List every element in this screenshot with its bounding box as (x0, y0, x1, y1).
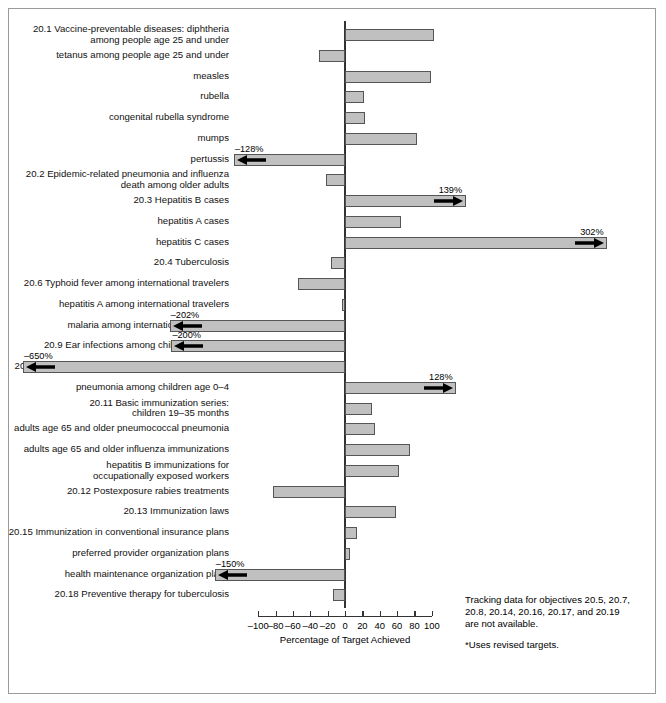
figure-notes: Tracking data for objectives 20.5, 20.7,… (465, 594, 665, 651)
x-tick (310, 611, 311, 616)
bar (345, 444, 410, 456)
bar (345, 71, 431, 83)
chart-row: hepatitis C cases302% (9, 232, 657, 254)
category-label: preferred provider organization plans (0, 548, 229, 559)
chart-row: 20.1 Vaccine-preventable diseases: dipht… (9, 24, 657, 46)
category-label: 20.13 Immunization laws (0, 506, 229, 517)
bar (345, 465, 399, 477)
x-tick (258, 611, 259, 616)
chart-row: 20.10 Pneumonia among people age 65 and … (9, 356, 657, 378)
chart-row: congenital rubella syndrome (9, 107, 657, 129)
category-label: hepatitis A among international traveler… (0, 299, 229, 310)
x-tick (328, 611, 329, 616)
chart-row: 20.3 Hepatitis B cases139% (9, 190, 657, 212)
category-label: pertussis (0, 154, 229, 165)
chart-row: mumps (9, 128, 657, 150)
bar-value-label: 139% (439, 185, 463, 195)
category-label: 20.6 Typhoid fever among international t… (0, 278, 229, 289)
category-label: hepatitis C cases (0, 237, 229, 248)
bar (345, 29, 434, 41)
chart-row: pertussis–128% (9, 149, 657, 171)
x-tick (432, 611, 433, 616)
chart-row: 20.2 Epidemic-related pneumonia and infl… (9, 169, 657, 191)
bar (23, 361, 345, 373)
bar-value-label: –128% (235, 144, 264, 154)
bar-value-label: –150% (216, 559, 245, 569)
bar (331, 257, 345, 269)
notes-line-2: 20.8, 20.14, 20.16, 20.17, and 20.19 (465, 606, 665, 618)
x-tick-label: 100 (412, 620, 452, 631)
notes-line-4: *Uses revised targets. (465, 639, 665, 651)
bar (342, 299, 345, 311)
category-label: 20.15 Immunization in conventional insur… (0, 527, 229, 538)
x-tick (345, 611, 346, 616)
chart-row: tetanus among people age 25 and under (9, 45, 657, 67)
chart-row: 20.9 Ear infections among children age 0… (9, 335, 657, 357)
bar (345, 91, 364, 103)
category-label: adults age 65 and older influenza immuni… (0, 444, 229, 455)
category-label: rubella (0, 91, 229, 102)
category-label: measles (0, 71, 229, 82)
bar (345, 548, 350, 560)
chart-row: rubella (9, 86, 657, 108)
category-label: 20.11 Basic immunization series: childre… (0, 398, 229, 420)
bar (345, 506, 396, 518)
chart-row: 20.4 Tuberculosis (9, 252, 657, 274)
bar (345, 527, 357, 539)
bar (326, 174, 345, 186)
bar (345, 133, 417, 145)
chart-row: 20.12 Postexposure rabies treatments (9, 481, 657, 503)
category-label: pneumonia among children age 0–4 (0, 382, 229, 393)
bar (345, 382, 456, 394)
bar (234, 154, 345, 166)
chart-frame: –100–80–60–40–20020406080100 20.1 Vaccin… (8, 8, 656, 694)
category-label: adults age 65 and older pneumococcal pne… (0, 423, 229, 434)
bar (273, 486, 345, 498)
bar (171, 340, 345, 352)
chart-row: pneumonia among children age 0–4128% (9, 377, 657, 399)
chart-row: adults age 65 and older pneumococcal pne… (9, 418, 657, 440)
bar (345, 112, 365, 124)
chart-plot-area: –100–80–60–40–20020406080100 20.1 Vaccin… (9, 9, 657, 695)
chart-row: preferred provider organization plans (9, 543, 657, 565)
notes-line-3: are not available. (465, 618, 665, 630)
chart-row: measles (9, 66, 657, 88)
category-label: 20.12 Postexposure rabies treatments (0, 486, 229, 497)
notes-line-1: Tracking data for objectives 20.5, 20.7, (465, 594, 665, 606)
x-axis-title: Percentage of Target Achieved (195, 634, 495, 645)
x-tick (380, 611, 381, 616)
chart-row: malaria among international travelers*–2… (9, 315, 657, 337)
chart-row: 20.13 Immunization laws (9, 501, 657, 523)
category-label: hepatitis A cases (0, 216, 229, 227)
x-tick (397, 611, 398, 616)
bar-value-label: –202% (171, 310, 200, 320)
chart-row: hepatitis A among international traveler… (9, 294, 657, 316)
bar (345, 423, 375, 435)
chart-row: adults age 65 and older influenza immuni… (9, 439, 657, 461)
x-tick (362, 611, 363, 616)
bar (345, 195, 466, 207)
x-tick (276, 611, 277, 616)
chart-row: health maintenance organization plans–15… (9, 564, 657, 586)
bar-value-label: 128% (429, 372, 453, 382)
x-tick (293, 611, 294, 616)
category-label: health maintenance organization plans (0, 569, 229, 580)
chart-row: 20.11 Basic immunization series: childre… (9, 398, 657, 420)
bar (215, 569, 345, 581)
category-label: congenital rubella syndrome (0, 112, 229, 123)
bar-value-label: –200% (172, 330, 201, 340)
x-tick (414, 611, 415, 616)
category-label: 20.18 Preventive therapy for tuberculosi… (0, 589, 229, 600)
bar (333, 589, 345, 601)
chart-row: hepatitis A cases (9, 211, 657, 233)
bar-value-label: 302% (580, 227, 604, 237)
bar (345, 216, 401, 228)
bar (345, 403, 372, 415)
chart-row: 20.6 Typhoid fever among international t… (9, 273, 657, 295)
bar (298, 278, 345, 290)
chart-row: 20.15 Immunization in conventional insur… (9, 522, 657, 544)
x-axis-line (258, 616, 432, 617)
category-label: tetanus among people age 25 and under (0, 50, 229, 61)
category-label: 20.2 Epidemic-related pneumonia and infl… (0, 169, 229, 191)
category-label: mumps (0, 133, 229, 144)
